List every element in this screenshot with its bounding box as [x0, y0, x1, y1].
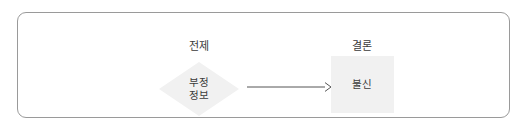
arrow-premise-to-conclusion	[246, 77, 332, 97]
diagram-canvas: 전제 결론 부정 정보 불신	[0, 0, 529, 132]
node-premise-line-2: 정보	[189, 89, 209, 102]
node-conclusion-text: 불신	[352, 78, 372, 91]
arrow-right-icon	[246, 77, 332, 97]
node-premise-line-1: 부정	[189, 76, 209, 89]
diagram-frame: 전제 결론 부정 정보 불신	[17, 12, 510, 118]
column-label-premise: 전제	[168, 40, 230, 53]
node-premise-text: 부정 정보	[159, 62, 239, 116]
node-conclusion: 불신	[331, 56, 394, 113]
column-label-conclusion: 결론	[331, 40, 393, 53]
node-premise: 부정 정보	[159, 62, 239, 116]
